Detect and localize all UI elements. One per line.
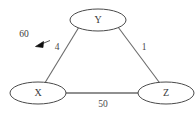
node-y-label: Y bbox=[94, 14, 101, 25]
graph-svg: Y X Z 4 1 50 60 bbox=[0, 0, 196, 122]
edge-label-group: 4 1 50 bbox=[55, 42, 147, 109]
node-x-label: X bbox=[34, 87, 42, 98]
annotation-label-60: 60 bbox=[19, 29, 29, 39]
annotation-group: 60 bbox=[19, 29, 50, 47]
edge-x-y bbox=[43, 27, 79, 86]
annotation-arrow-icon bbox=[36, 41, 51, 48]
edge-label-x-z: 50 bbox=[98, 99, 108, 109]
edge-label-y-z: 1 bbox=[142, 42, 147, 52]
graph-diagram-canvas: Y X Z 4 1 50 60 bbox=[0, 0, 196, 122]
node-z-label: Z bbox=[163, 87, 169, 98]
node-group: Y X Z bbox=[10, 9, 194, 104]
edge-label-x-y: 4 bbox=[55, 42, 60, 52]
edge-group bbox=[43, 27, 162, 93]
edge-y-z bbox=[118, 27, 162, 86]
